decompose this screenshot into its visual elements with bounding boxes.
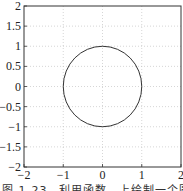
y-tick-label: 0 bbox=[15, 80, 21, 94]
y-tick-label: −0.5 bbox=[0, 100, 21, 114]
figure-caption: 图 1-23 利用函数 上绘制一个圆 bbox=[2, 181, 183, 191]
y-tick-label: 1 bbox=[15, 39, 21, 53]
grid-lines bbox=[24, 6, 181, 167]
x-tick-label: 1 bbox=[139, 168, 145, 182]
x-tick-label: −2 bbox=[18, 168, 31, 182]
y-axis-ticks: 21.510.50−0.5−1−1.5−2 bbox=[0, 0, 27, 174]
y-tick-label: 2 bbox=[15, 0, 21, 13]
x-tick-label: 0 bbox=[100, 168, 106, 182]
circle-plot: 21.510.50−0.5−1−1.5−2 −2−1012 bbox=[0, 0, 183, 191]
y-tick-label: 1.5 bbox=[6, 19, 21, 33]
x-tick-label: 2 bbox=[178, 168, 183, 182]
x-tick-label: −1 bbox=[57, 168, 70, 182]
y-tick-label: 0.5 bbox=[6, 59, 21, 73]
y-tick-label: −1.5 bbox=[0, 140, 21, 154]
y-tick-label: −1 bbox=[8, 120, 21, 134]
